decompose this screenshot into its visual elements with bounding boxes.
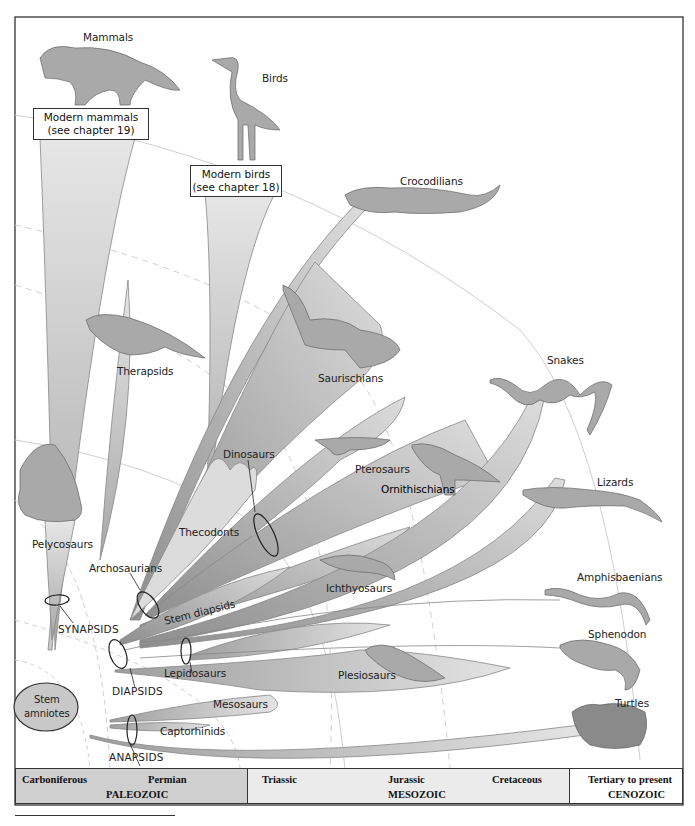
era-mesozoic: Triassic Jurassic Cretaceous MESOZOIC xyxy=(248,769,570,803)
label-crocodilians: Crocodilians xyxy=(400,176,463,187)
modern-mammals-callout: Modern mammals (see chapter 19) xyxy=(33,108,149,140)
label-diapsids: DIAPSIDS xyxy=(112,686,163,697)
era-label-paleozoic: PALEOZOIC xyxy=(106,789,168,800)
era-label-mesozoic: MESOZOIC xyxy=(388,789,446,800)
label-amniotes: amniotes xyxy=(24,709,70,719)
label-pelycosaurs: Pelycosaurs xyxy=(32,539,93,550)
amphisbaenian-icon xyxy=(545,588,650,625)
label-lizards: Lizards xyxy=(597,477,633,488)
branches xyxy=(40,138,585,758)
label-therapsids: Therapsids xyxy=(117,366,173,377)
label-saurischians: Saurischians xyxy=(318,373,383,384)
period-jurassic: Jurassic xyxy=(388,774,425,785)
turtle-icon xyxy=(572,704,647,749)
label-plesiosaurs: Plesiosaurs xyxy=(338,670,396,681)
sphenodon-icon xyxy=(560,640,640,690)
label-turtles: Turtles xyxy=(615,698,649,709)
label-anapsids: ANAPSIDS xyxy=(109,752,164,763)
label-archosaurians: Archosaurians xyxy=(89,563,162,574)
label-amphisbaenians: Amphisbaenians xyxy=(577,572,662,583)
label-thecodonts: Thecodonts xyxy=(179,527,239,538)
stem-amniotes-node xyxy=(14,683,78,731)
period-tertiary-to-present: Tertiary to present xyxy=(588,774,672,785)
label-birds: Birds xyxy=(262,73,288,84)
therapsid-icon xyxy=(86,314,205,358)
label-stem: Stem xyxy=(34,695,60,705)
period-permian: Permian xyxy=(148,774,187,785)
era-label-cenozoic: CENOZOIC xyxy=(608,789,665,800)
label-ornithischians: Ornithischians xyxy=(381,484,455,495)
label-ichthyosaurs: Ichthyosaurs xyxy=(326,583,392,594)
label-captorhinids: Captorhinids xyxy=(160,726,225,737)
era-paleozoic: Carboniferous Permian PALEOZOIC xyxy=(16,769,248,803)
modern-birds-callout: Modern birds (see chapter 18) xyxy=(190,165,282,197)
snake-icon xyxy=(490,378,612,435)
label-pterosaurs: Pterosaurs xyxy=(355,464,410,475)
period-cretaceous: Cretaceous xyxy=(492,774,542,785)
label-dinosaurs: Dinosaurs xyxy=(223,449,275,460)
label-sphenodon: Sphenodon xyxy=(588,629,646,640)
phylogeny-diagram: Modern mammals (see chapter 19) Modern b… xyxy=(0,0,695,826)
period-triassic: Triassic xyxy=(262,774,297,785)
crocodile-icon xyxy=(345,185,500,214)
label-lepidosaurs: Lepidosaurs xyxy=(164,668,226,679)
label-mammals: Mammals xyxy=(83,32,133,43)
geologic-timeline: Carboniferous Permian PALEOZOIC Triassic… xyxy=(15,768,683,804)
label-snakes: Snakes xyxy=(547,355,584,366)
era-cenozoic: Tertiary to present CENOZOIC xyxy=(570,769,682,803)
label-mesosaurs: Mesosaurs xyxy=(213,699,268,710)
period-carboniferous: Carboniferous xyxy=(22,774,87,785)
footnote-divider xyxy=(15,815,175,816)
fox-icon xyxy=(40,46,180,105)
label-synapsids: SYNAPSIDS xyxy=(58,624,119,635)
